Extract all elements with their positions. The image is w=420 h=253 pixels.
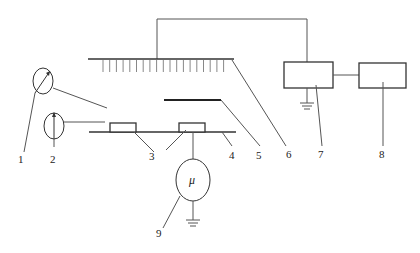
box-7 [284, 62, 333, 88]
leader-6 [232, 60, 286, 146]
label-6: 6 [286, 148, 292, 160]
label-4: 4 [229, 149, 235, 161]
leader-3a [134, 132, 154, 152]
label-7: 7 [318, 148, 324, 160]
gauge-1-icon [33, 68, 107, 108]
label-5: 5 [256, 149, 262, 161]
leader-4 [222, 132, 232, 146]
label-2: 2 [50, 153, 56, 165]
meter-symbol: μ [188, 173, 195, 187]
comb-electrode [88, 59, 234, 72]
sample-left [110, 123, 136, 132]
label-1: 1 [18, 153, 24, 165]
gauge-2-icon [44, 112, 105, 147]
label-3: 3 [149, 150, 155, 162]
label-9: 9 [156, 227, 162, 239]
wire-comb-to-box7 [157, 19, 307, 62]
label-8: 8 [379, 148, 385, 160]
micro-ammeter-icon: μ [176, 132, 210, 226]
leader-1 [24, 93, 35, 152]
leader-3b [166, 130, 186, 150]
leader-9 [163, 196, 180, 228]
ground-7-icon [300, 88, 314, 109]
schematic-diagram: μ 1 2 3 4 5 6 7 8 9 [0, 0, 420, 253]
leader-7 [316, 85, 322, 146]
sample-right [179, 123, 205, 132]
